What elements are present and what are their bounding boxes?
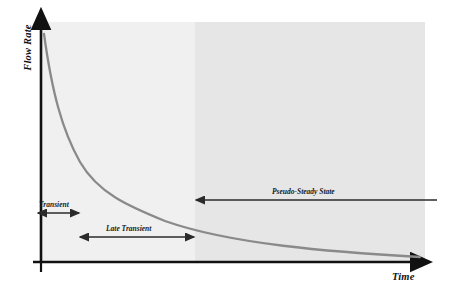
y-axis-label: Flow Rate [22,13,33,83]
late-transient-label: Late Transient [106,224,151,233]
transient-label: Transient [39,200,69,209]
region-late-shading [195,22,425,262]
pseudo-steady-state-label: Pseudo-Steady State [272,187,335,196]
x-axis-label: Time [392,271,415,282]
chart-figure: Flow Rate Time Transient Late Transient … [0,0,458,292]
decline-curve-plot [0,0,458,292]
